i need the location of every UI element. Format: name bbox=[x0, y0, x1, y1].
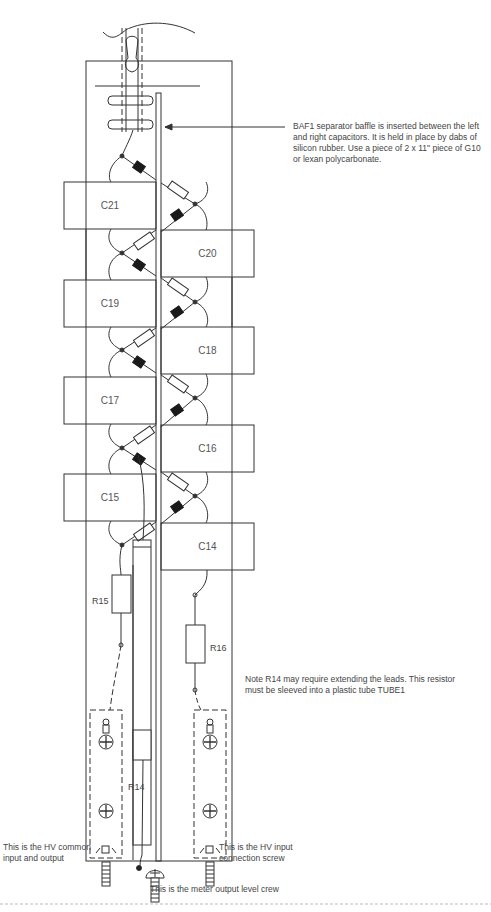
terminal-left bbox=[96, 719, 116, 853]
terminal-box-left bbox=[90, 710, 122, 858]
baffle-annotation: BAF1 separator baffle is inserted betwee… bbox=[293, 121, 488, 165]
terminal-right bbox=[200, 719, 220, 853]
r15-body bbox=[112, 575, 131, 613]
label-c21: C21 bbox=[64, 200, 156, 211]
baffle-baf1 bbox=[156, 93, 161, 861]
tube1 bbox=[133, 540, 151, 845]
hv-common-label: This is the HV common input and output bbox=[3, 842, 93, 864]
label-c14: C14 bbox=[161, 541, 254, 552]
label-r14: R14 bbox=[128, 782, 145, 793]
label-r15: R15 bbox=[92, 596, 109, 607]
label-r16: R16 bbox=[210, 643, 227, 654]
fuse-bulb bbox=[125, 36, 138, 72]
label-c15: C15 bbox=[64, 492, 156, 503]
terminal-box-right bbox=[194, 710, 226, 858]
top-wire bbox=[103, 23, 195, 37]
screw-left bbox=[102, 862, 110, 886]
label-c19: C19 bbox=[64, 298, 156, 309]
label-c17: C17 bbox=[64, 395, 156, 406]
screw-right bbox=[206, 862, 214, 886]
r16-body bbox=[186, 625, 205, 663]
meter-output-label: This is the meter output level crew bbox=[150, 884, 310, 895]
clamp-2 bbox=[108, 120, 153, 129]
r14-note: Note R14 may require extending the leads… bbox=[245, 674, 465, 696]
r14-body bbox=[133, 730, 151, 760]
label-c20: C20 bbox=[161, 248, 254, 259]
clamp-1 bbox=[108, 96, 153, 105]
label-c18: C18 bbox=[161, 345, 254, 356]
label-c16: C16 bbox=[161, 443, 254, 454]
hv-input-label: This is the HV input connection screw bbox=[219, 842, 301, 864]
